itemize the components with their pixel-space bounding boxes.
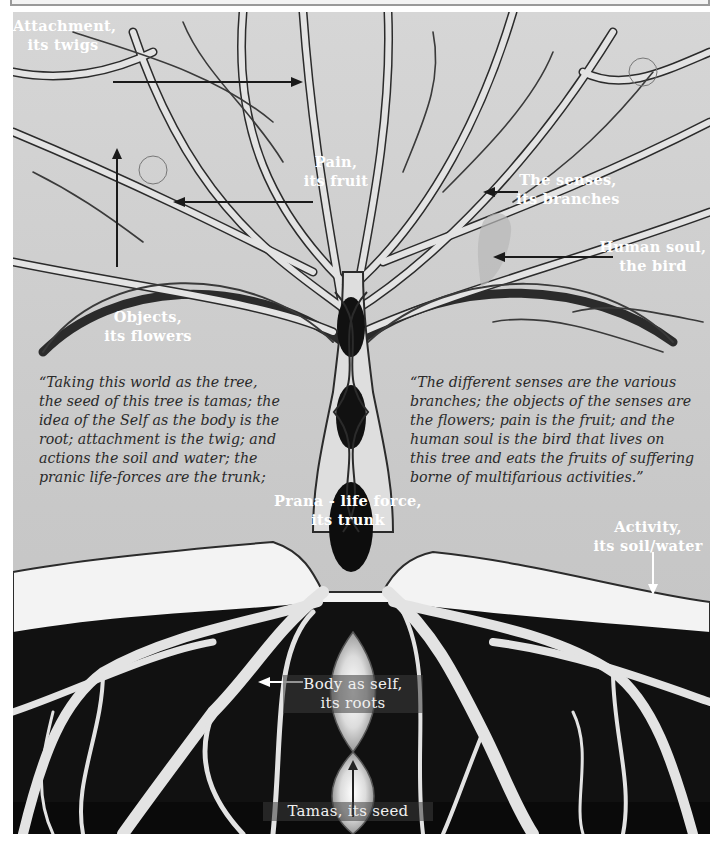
label-senses-branches: The senses, its branches (508, 170, 628, 208)
label-line: its roots (283, 694, 423, 713)
label-line: its soil/water (583, 536, 710, 555)
label-line: its fruit (281, 171, 391, 190)
label-line: Human soul, (593, 237, 710, 256)
label-line: Body as self, (283, 675, 423, 694)
label-line: the bird (593, 256, 710, 275)
quote-line: actions the soil and water; the (39, 449, 280, 468)
label-prana-trunk: Prana - life force, its trunk (263, 491, 433, 529)
quote-line: pranic life-forces are the trunk; (39, 468, 280, 487)
label-pain-fruit: Pain, its fruit (281, 152, 391, 190)
label-human-soul-bird: Human soul, the bird (593, 237, 710, 275)
tree-illustration: Attachment, its twigs Pain, its fruit Th… (13, 12, 710, 834)
quote-line: “The different senses are the various (410, 373, 694, 392)
label-line: Objects, (88, 307, 208, 326)
top-border-bar (10, 0, 710, 6)
quote-line: “Taking this world as the tree, (39, 373, 280, 392)
label-attachment-twigs: Attachment, its twigs (13, 16, 113, 54)
label-line: its branches (508, 189, 628, 208)
quote-line: the flowers; pain is the fruit; and the (410, 411, 694, 430)
quote-line: borne of multifarious activities.” (410, 468, 694, 487)
quote-right: “The different senses are the various br… (410, 373, 694, 487)
quote-line: human soul is the bird that lives on (410, 430, 694, 449)
label-line: Pain, (281, 152, 391, 171)
label-line: Activity, (583, 517, 710, 536)
quote-line: root; attachment is the twig; and (39, 430, 280, 449)
label-line: Tamas, its seed (263, 802, 433, 821)
label-activity-soil: Activity, its soil/water (583, 517, 710, 555)
label-line: its twigs (13, 35, 113, 54)
label-tamas-seed: Tamas, its seed (263, 802, 433, 821)
label-objects-flowers: Objects, its flowers (88, 307, 208, 345)
quote-left: “Taking this world as the tree, the seed… (39, 373, 280, 487)
label-line: Prana - life force, (263, 491, 433, 510)
label-body-roots: Body as self, its roots (283, 675, 423, 713)
label-line: Attachment, (13, 16, 113, 35)
label-line: its trunk (263, 510, 433, 529)
quote-line: the seed of this tree is tamas; the (39, 392, 280, 411)
quote-line: idea of the Self as the body is the (39, 411, 280, 430)
quote-line: this tree and eats the fruits of sufferi… (410, 449, 694, 468)
label-line: The senses, (508, 170, 628, 189)
quote-line: branches; the objects of the senses are (410, 392, 694, 411)
label-line: its flowers (88, 326, 208, 345)
